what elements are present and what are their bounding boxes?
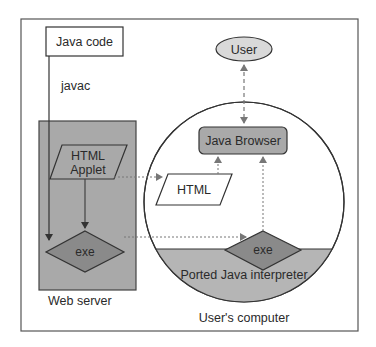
client-exe-label: exe [253, 243, 273, 257]
user-label: User [231, 43, 257, 57]
diagram-canvas: Web server Ported Java interpreter User'… [0, 0, 376, 347]
web-server-label: Web server [48, 294, 112, 308]
javac-label: javac [60, 79, 90, 93]
users-computer-label: User's computer [199, 311, 290, 325]
java-browser-label: Java Browser [205, 134, 281, 148]
html-applet-label-line2: Applet [70, 163, 106, 177]
ported-interpreter-label: Ported Java interpreter [180, 268, 307, 282]
java-code-label: Java code [56, 35, 113, 49]
html-applet-label-line1: HTML [71, 149, 105, 163]
html-client-label: HTML [177, 183, 211, 197]
server-exe-label: exe [75, 245, 95, 259]
